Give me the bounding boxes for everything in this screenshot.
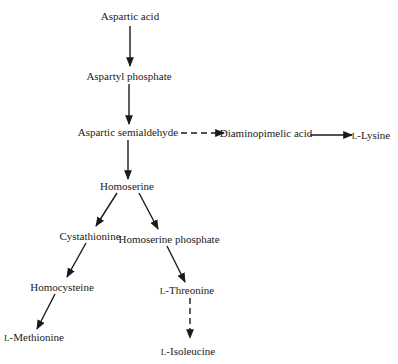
node-label: -Threonine: [165, 284, 214, 296]
node-label: -Lysine: [357, 129, 390, 141]
node-label: Aspartyl phosphate: [86, 70, 171, 82]
node-hse: Homoserine: [100, 180, 154, 192]
node-hsp: Homoserine phosphate: [118, 233, 219, 245]
node-dap: Diaminopimelic acid: [220, 127, 313, 139]
node-asa: Aspartic semialdehyde: [78, 126, 179, 138]
node-label: Cystathionine: [59, 230, 120, 242]
node-thr: L-Threonine: [160, 284, 214, 297]
node-lys: L-Lysine: [352, 129, 391, 142]
pathway-edges: [0, 0, 398, 364]
node-hcy: Homocysteine: [30, 281, 94, 293]
node-cys: Cystathionine: [59, 230, 120, 242]
node-label: -Isoleucine: [166, 345, 215, 357]
node-label: Aspartic semialdehyde: [78, 126, 179, 138]
node-asp: Aspartic acid: [101, 10, 159, 22]
arrow-hse-to-hsp: [139, 193, 158, 229]
node-label: -Methionine: [10, 331, 64, 343]
arrow-hsp-to-thr: [167, 246, 185, 282]
node-label: Diaminopimelic acid: [220, 127, 313, 139]
arrow-hse-to-cys: [96, 193, 117, 226]
node-label: Homoserine: [100, 180, 154, 192]
node-met: L-Methionine: [4, 331, 64, 344]
node-label: Homoserine phosphate: [118, 233, 219, 245]
arrow-cys-to-hcy: [67, 243, 86, 277]
node-label: Aspartic acid: [101, 10, 159, 22]
node-label: Homocysteine: [30, 281, 94, 293]
node-ile: L-Isoleucine: [161, 345, 215, 358]
node-aspp: Aspartyl phosphate: [86, 70, 171, 82]
arrow-hcy-to-met: [37, 294, 55, 329]
